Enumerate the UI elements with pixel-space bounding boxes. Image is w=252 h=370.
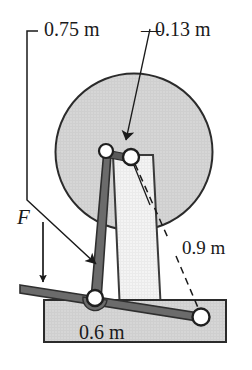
dimension-label-0-6m: 0.6 m: [79, 322, 125, 342]
mechanics-figure: 0.75 m — 0.13 m 0.9 m 0.6 m F: [0, 0, 252, 370]
pin-upper-left: [99, 144, 113, 158]
dimension-label-0-13m: 0.13 m: [155, 19, 211, 39]
pin-upper-right: [123, 149, 139, 165]
pin-lower-right: [193, 309, 210, 326]
force-label-F: F: [17, 207, 30, 228]
vertical-post: [113, 155, 161, 312]
dimension-label-0-75m: 0.75 m: [44, 19, 100, 39]
figure-canvas: [0, 0, 252, 370]
dimension-label-0-9m: 0.9 m: [182, 238, 225, 257]
pin-lower-left: [87, 290, 103, 306]
